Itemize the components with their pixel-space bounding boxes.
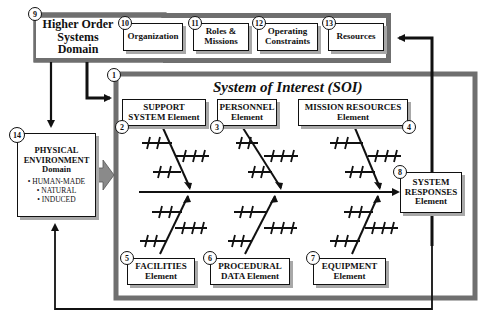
facilities-element: FACILITIES Element: [127, 258, 195, 285]
badge-4: 4: [402, 120, 416, 134]
badge-5: 5: [120, 251, 134, 265]
badge-6: 6: [203, 251, 217, 265]
badge-9: 9: [28, 7, 42, 21]
badge-3: 3: [210, 120, 224, 134]
badge-12: 12: [252, 16, 266, 30]
support-system-element: SUPPORT SYSTEM Element: [122, 99, 206, 126]
badge-14: 14: [9, 127, 25, 143]
badge-7: 7: [306, 251, 320, 265]
soi-title: System of Interest (SOI): [213, 79, 363, 96]
badge-10: 10: [118, 16, 132, 30]
badge-13: 13: [322, 16, 336, 30]
environment-list: • HUMAN-MADE • NATURAL • INDUCED: [28, 177, 85, 204]
system-responses-element: SYSTEM RESPONSES Element: [400, 172, 462, 213]
operating-constraints-box: Operating Constraints: [257, 23, 318, 51]
personnel-element: PERSONNEL Element: [217, 99, 277, 126]
roles-missions-box: Roles & Missions: [193, 23, 249, 51]
resources-box: Resources: [328, 23, 384, 51]
badge-1: 1: [107, 68, 121, 82]
badge-11: 11: [188, 16, 202, 30]
equipment-element: EQUIPMENT Element: [313, 258, 386, 285]
environment-arrow: [97, 160, 114, 190]
higher-order-title: Higher Order Systems Domain: [38, 18, 118, 56]
badge-2: 2: [115, 120, 129, 134]
procedural-data-element: PROCEDURAL DATA Element: [210, 258, 290, 285]
physical-environment-domain: PHYSICAL ENVIRONMENT Domain • HUMAN-MADE…: [17, 133, 96, 217]
mission-resources-element: MISSION RESOURCES Element: [298, 99, 408, 126]
badge-8: 8: [393, 165, 407, 179]
organization-box: Organization: [123, 23, 183, 51]
